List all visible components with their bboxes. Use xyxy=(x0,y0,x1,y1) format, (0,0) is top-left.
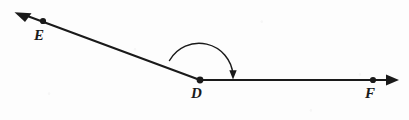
angle-arc-edf xyxy=(170,43,237,79)
ray-de-line xyxy=(26,16,200,81)
angle-arc-arrowhead xyxy=(229,70,236,79)
geometry-canvas xyxy=(0,0,409,120)
angle-arc-path xyxy=(170,43,234,75)
point-f-dot xyxy=(370,77,376,83)
point-e-dot xyxy=(40,18,46,24)
ray-df-arrowhead xyxy=(386,75,399,86)
point-label-d: D xyxy=(191,86,202,101)
point-label-f: F xyxy=(365,86,375,101)
point-d-dot xyxy=(197,77,204,84)
point-label-e: E xyxy=(34,28,44,43)
ray-df xyxy=(200,75,399,86)
geometry-figure: E D F xyxy=(0,0,409,120)
